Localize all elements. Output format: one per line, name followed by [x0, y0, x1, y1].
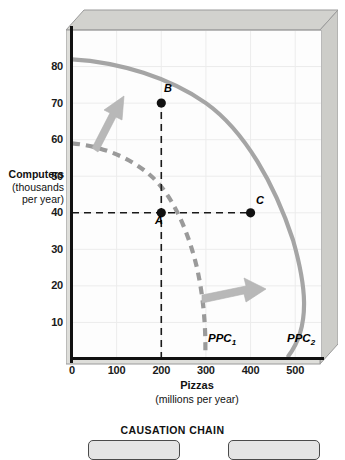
y-tick-60: 60	[33, 133, 63, 145]
y-tick-70: 70	[33, 97, 63, 109]
y-tick-30: 30	[33, 243, 63, 255]
x-tick-300: 300	[186, 364, 226, 376]
ppc2-label-sub: 2	[311, 338, 315, 347]
causation-chain-title: CAUSATION CHAIN	[0, 424, 345, 436]
x-tick-200: 200	[141, 364, 181, 376]
y-axis-line	[70, 26, 73, 363]
point-label-c: C	[256, 194, 264, 206]
x-axis-title-line2: (millions per year)	[72, 392, 322, 406]
y-axis-title: Computers (thousands per year)	[0, 168, 64, 206]
ppc2-label: PPC2	[287, 332, 315, 347]
causation-chain-box-1[interactable]	[88, 440, 180, 460]
y-axis-title-line2: (thousands	[0, 181, 64, 194]
ppc1-label: PPC1	[208, 332, 236, 347]
x-axis-line	[70, 357, 324, 360]
shift-arrow-up-icon	[92, 96, 124, 152]
x-tick-400: 400	[231, 364, 271, 376]
y-tick-80: 80	[33, 60, 63, 72]
x-axis-title: Pizzas (millions per year)	[72, 378, 322, 406]
point-label-a: A	[155, 214, 163, 226]
x-tick-100: 100	[97, 364, 137, 376]
ppc2-curve	[72, 59, 304, 356]
shift-arrow-right-icon	[202, 278, 266, 303]
y-tick-10: 10	[33, 316, 63, 328]
ppc1-label-text: PPC	[208, 332, 232, 344]
y-axis-title-line3: per year)	[0, 193, 64, 206]
point-label-b: B	[164, 82, 172, 94]
y-tick-20: 20	[33, 279, 63, 291]
data-point-c[interactable]	[246, 208, 255, 217]
causation-chain-box-2[interactable]	[228, 440, 320, 460]
x-tick-500: 500	[275, 364, 315, 376]
x-tick-0: 0	[52, 364, 92, 376]
ppc1-label-sub: 1	[232, 338, 236, 347]
data-point-b[interactable]	[157, 99, 166, 108]
y-tick-40: 40	[33, 206, 63, 218]
gridlines	[72, 30, 322, 359]
x-axis-title-line1: Pizzas	[72, 378, 322, 392]
y-axis-title-line1: Computers	[0, 168, 64, 181]
ppc2-label-text: PPC	[287, 332, 311, 344]
